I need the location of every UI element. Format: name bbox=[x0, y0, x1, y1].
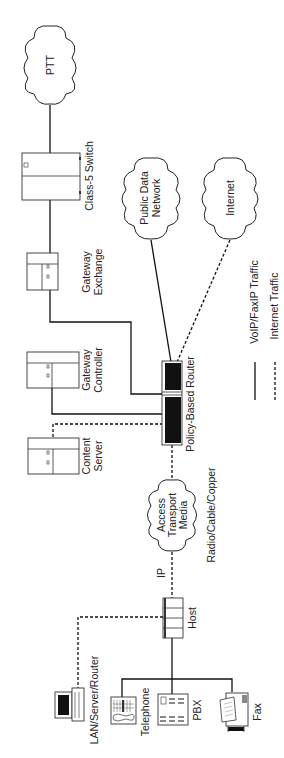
public-data-network-cloud: Public Data Network bbox=[122, 158, 180, 239]
link-gwcontroller-router bbox=[52, 388, 162, 414]
class5-switch-label: Class-5 Switch bbox=[83, 141, 95, 211]
link-internet-router bbox=[177, 240, 230, 362]
fax-label: Fax bbox=[251, 703, 263, 721]
gateway-exchange-server: Gateway Exchange bbox=[27, 248, 104, 295]
link-pdn-router bbox=[151, 240, 171, 362]
telephone-icon: Telephone bbox=[111, 688, 151, 737]
ptt-label: PTT bbox=[44, 55, 56, 75]
content-server-label-line1: Content bbox=[80, 438, 92, 475]
legend-solid-label: VoIP/FaxIP Traffic bbox=[248, 260, 260, 344]
host-device: Host bbox=[163, 598, 198, 638]
internet-cloud: Internet bbox=[202, 158, 258, 239]
legend-dashed-label: Internet Traffic bbox=[268, 273, 280, 340]
host-label: Host bbox=[186, 607, 198, 629]
class5-switch: Class-5 Switch bbox=[22, 141, 95, 211]
content-server-label-line2: Server bbox=[92, 440, 104, 471]
access-transport-label-line3: Media bbox=[177, 501, 189, 530]
gateway-controller-server: Gateway Controller bbox=[27, 347, 104, 393]
fax-icon: Fax bbox=[220, 693, 263, 732]
public-data-network-label-line2: Network bbox=[150, 178, 162, 217]
media-note-label: Radio/Cable/Copper bbox=[205, 467, 217, 563]
policy-router-label: Policy-Based Router bbox=[184, 356, 196, 452]
ip-label: IP bbox=[155, 568, 167, 578]
gateway-controller-label-line2: Controller bbox=[92, 347, 104, 393]
pbx-label: PBX bbox=[191, 699, 203, 720]
internet-label: Internet bbox=[224, 180, 236, 216]
access-transport-cloud: Access Transport Media bbox=[148, 480, 197, 551]
gateway-exchange-label-line1: Gateway bbox=[80, 251, 92, 293]
policy-based-router: Policy-Based Router bbox=[162, 356, 196, 452]
content-server: Content Server bbox=[28, 438, 104, 475]
lan-label: LAN/Server/Router bbox=[88, 655, 100, 744]
gateway-controller-label-line1: Gateway bbox=[80, 349, 92, 391]
gateway-exchange-label-line2: Exchange bbox=[92, 248, 104, 295]
legend: VoIP/FaxIP Traffic Internet Traffic bbox=[248, 260, 280, 400]
telephone-label: Telephone bbox=[139, 688, 151, 737]
pbx-icon: PBX bbox=[158, 694, 203, 725]
network-diagram: PTT Public Data Network Internet Access … bbox=[0, 0, 284, 758]
ptt-cloud: PTT bbox=[24, 26, 76, 105]
public-data-network-label-line1: Public Data bbox=[138, 171, 150, 225]
